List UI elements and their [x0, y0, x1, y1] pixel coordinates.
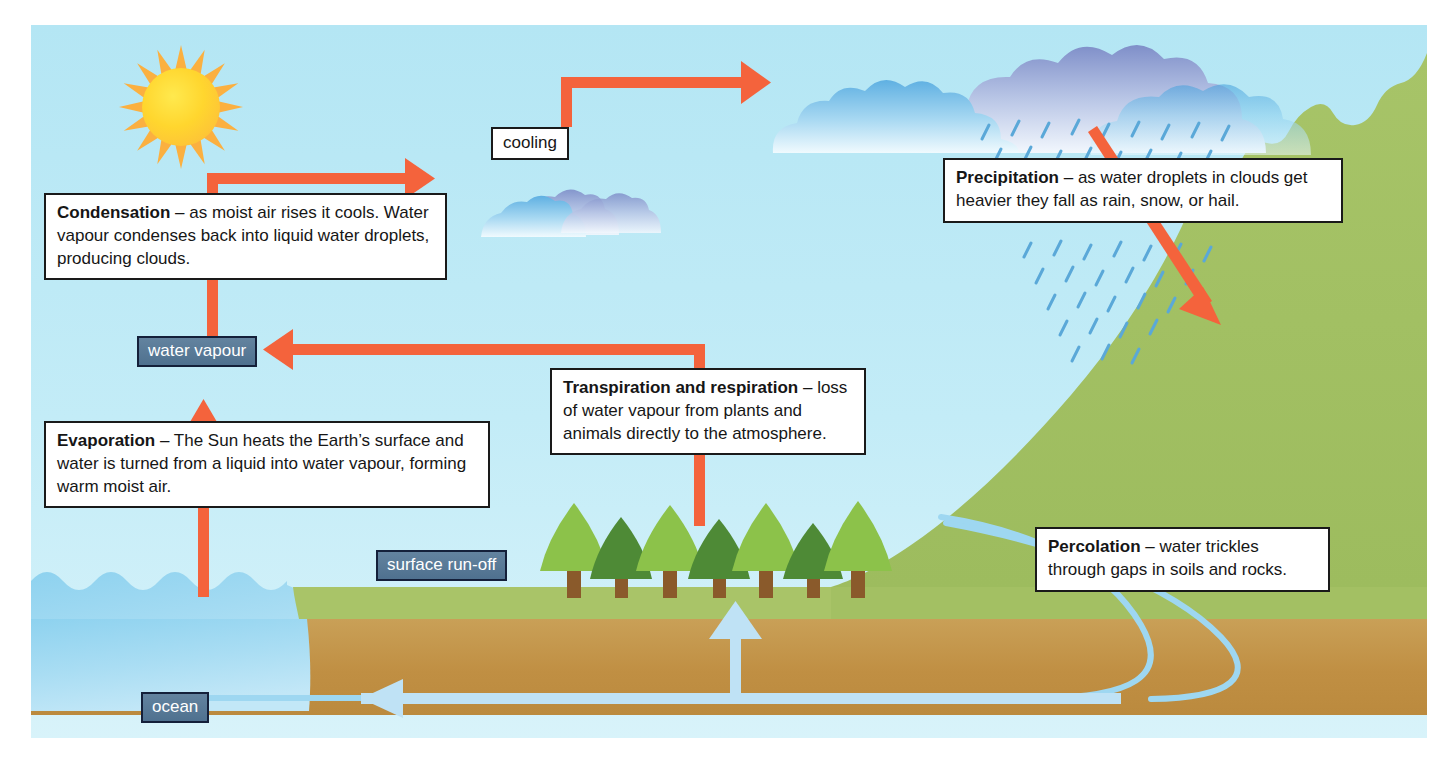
water-cycle-scene: Condensation – as moist air rises it coo… [31, 25, 1427, 738]
label-cooling: cooling [491, 127, 569, 160]
callout-precipitation-term: Precipitation [956, 168, 1059, 187]
callout-precipitation: Precipitation – as water droplets in clo… [943, 158, 1343, 223]
callout-transpiration: Transpiration and respiration – loss of … [550, 368, 866, 455]
callout-percolation: Percolation – water trickles through gap… [1035, 527, 1330, 592]
callout-transpiration-term: Transpiration and respiration [563, 378, 798, 397]
callout-percolation-dash: – [1141, 537, 1160, 556]
callout-condensation: Condensation – as moist air rises it coo… [44, 193, 447, 280]
callout-percolation-term: Percolation [1048, 537, 1141, 556]
diagram-canvas: Condensation – as moist air rises it coo… [0, 0, 1455, 760]
callout-evaporation-dash: – [155, 431, 174, 450]
callout-transpiration-dash: – [798, 378, 817, 397]
orange-elbow-arrow-cooling [561, 61, 771, 127]
label-water-vapour: water vapour [137, 336, 257, 367]
callout-precipitation-dash: – [1059, 168, 1078, 187]
label-ocean: ocean [141, 692, 209, 723]
callout-evaporation-term: Evaporation [57, 431, 155, 450]
callout-condensation-dash: – [170, 203, 189, 222]
callout-evaporation: Evaporation – The Sun heats the Earth’s … [44, 421, 490, 508]
orange-arrow-precipitation [1088, 126, 1221, 325]
callout-condensation-term: Condensation [57, 203, 170, 222]
label-surface-runoff: surface run-off [376, 550, 507, 581]
